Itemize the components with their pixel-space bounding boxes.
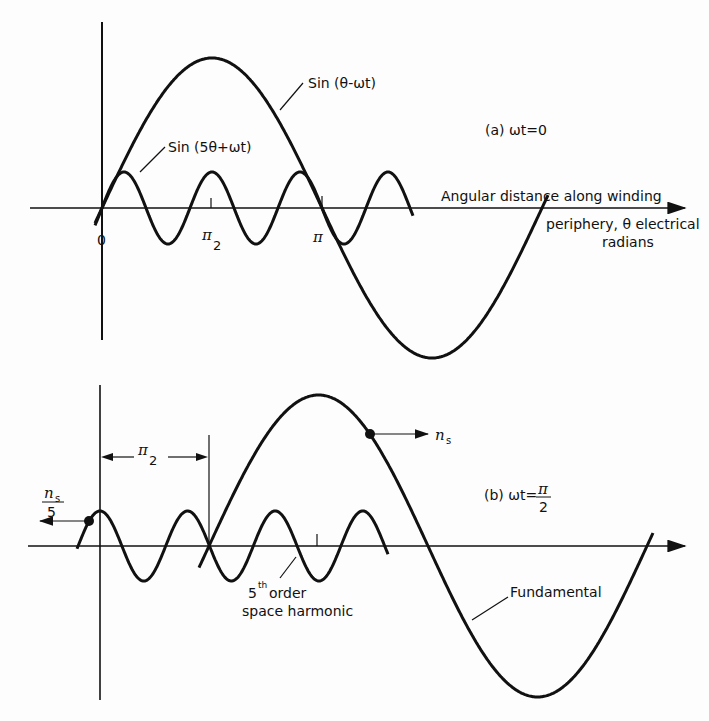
condition-b-prefix: (b) ωt= (484, 487, 537, 503)
condition-b-den: 2 (539, 499, 548, 515)
dim-label-den: 2 (149, 453, 157, 468)
condition-a: (a) ωt=0 (485, 122, 547, 138)
leader-harm-a (140, 147, 165, 172)
tick-label-pi2-den: 2 (213, 238, 221, 253)
ns5-label: n (44, 484, 54, 502)
condition-b-num: π (537, 480, 549, 498)
ns5-denominator: 5 (47, 504, 56, 520)
harmonic-label-b-order: order (269, 585, 307, 601)
leader-harm-b (280, 557, 296, 578)
dim-arrowhead-right (196, 453, 208, 461)
diagram-svg: Sin (θ-ωt) Sin (5θ+ωt) (a) ωt=0 0 π 2 π … (0, 0, 709, 721)
tick-label-pi: π (312, 228, 324, 246)
axis-label-line2: periphery, θ electrical (546, 216, 700, 232)
tick-label-pi2-num: π (201, 226, 213, 244)
dim-arrowhead-left (101, 453, 113, 461)
tick-label-0: 0 (97, 232, 106, 248)
panel-a: Sin (θ-ωt) Sin (5θ+ωt) (a) ωt=0 0 π 2 π … (30, 22, 700, 358)
harmonic-label-a: Sin (5θ+ωt) (168, 139, 251, 155)
fundamental-label-b: Fundamental (510, 584, 602, 600)
figure: Sin (θ-ωt) Sin (5θ+ωt) (a) ωt=0 0 π 2 π … (0, 0, 709, 721)
axis-label-line1: Angular distance along winding (441, 188, 662, 204)
harmonic-label-b-sup: th (258, 580, 267, 590)
harmonic-label-b-line2: space harmonic (242, 603, 353, 619)
leader-fund-a (280, 83, 303, 110)
axis-label-line3: radians (602, 234, 654, 250)
panel-b: π 2 n s n s 5 (b) ωt= π 2 5 th order spa… (28, 385, 685, 700)
fundamental-label-a: Sin (θ-ωt) (308, 75, 376, 91)
harmonic-label-b-5: 5 (248, 585, 257, 601)
ns-label: n (435, 426, 445, 444)
leader-fund-b (472, 597, 508, 620)
ns-subscript: s (446, 435, 451, 446)
dim-label-num: π (137, 441, 149, 459)
